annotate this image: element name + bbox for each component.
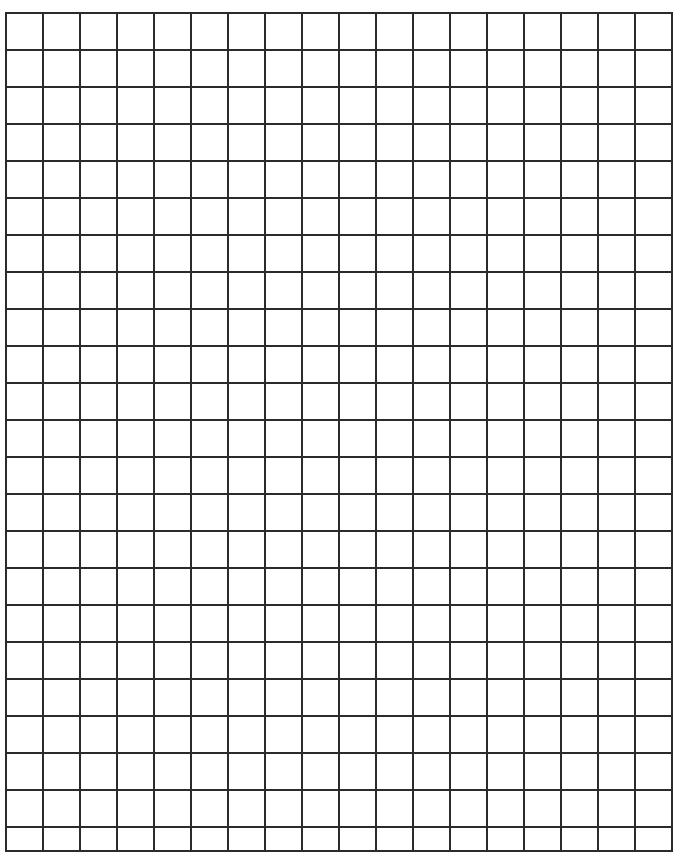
grid-svg (5, 12, 673, 852)
page-canvas (0, 0, 675, 858)
grid-paper-sheet (5, 12, 673, 852)
grid-lines-layer (5, 12, 673, 852)
